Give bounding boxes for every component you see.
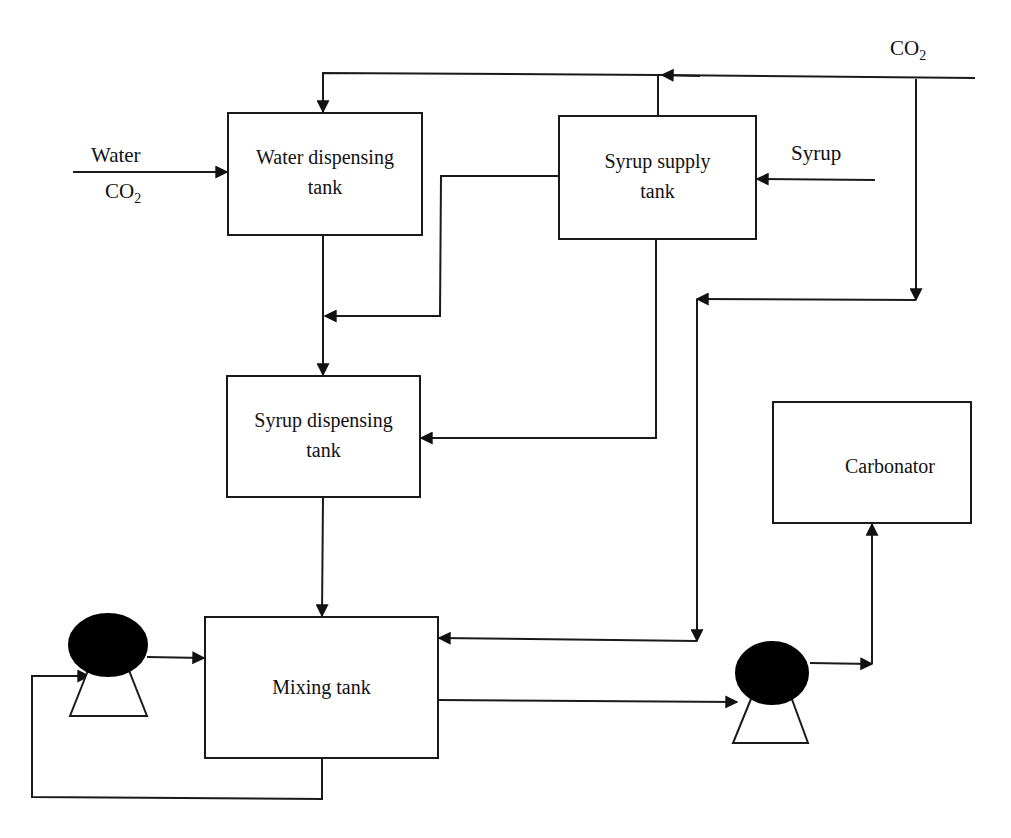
mixing-to-pump2 [438,700,737,702]
co2-top-sub: 2 [919,48,926,63]
process-flow-diagram [0,0,1011,838]
carbonator-text: Carbonator [845,451,935,481]
syrup-dispensing-to-mixing [322,497,323,616]
carbonator-label: Carbonator [830,449,950,483]
co2-left-sub: 2 [134,191,141,206]
syrup-supply-tank-label: Syrup supply tank [559,144,756,208]
syrup-input-line [757,179,875,180]
co2-left-base: CO [105,179,134,203]
syrup-dispensing-tank-label: Syrup dispensing tank [227,403,420,467]
syrup-dispensing-line2: tank [306,435,340,465]
co2-to-water-tank [323,73,658,112]
pump-2-icon [733,642,808,743]
mixing-tank-text: Mixing tank [272,672,370,702]
water-tank-line2: tank [308,172,342,202]
syrup-supply-to-dispensing [421,239,656,438]
water-dispensing-tank-label: Water dispensing tank [228,140,422,204]
pump1-to-mixing [147,657,204,658]
co2-branch-left [697,299,916,300]
co2-header-line [658,75,975,78]
syrup-input-label: Syrup [791,141,841,165]
co2-left-label: CO2 [105,179,141,211]
mixing-tank-label: Mixing tank [205,670,438,704]
syrup-supply-line2: tank [640,176,674,206]
pump2-outlet [810,663,872,664]
co2-top-base: CO [890,36,919,60]
co2-to-mixing-left [439,638,697,641]
syrup-dispensing-line1: Syrup dispensing [254,405,392,435]
water-tank-line1: Water dispensing [256,142,394,172]
co2-top-label: CO2 [890,36,926,68]
syrup-supply-line1: Syrup supply [604,146,710,176]
water-input-label: Water [91,143,141,167]
pump-1-icon [69,614,147,716]
co2-header-arrow [662,75,700,76]
